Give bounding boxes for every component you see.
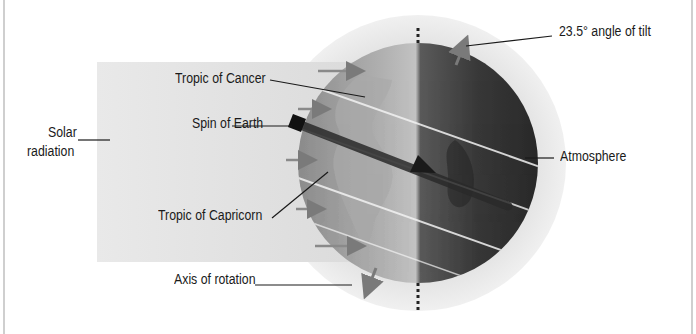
earth-diagram	[0, 0, 696, 334]
label-tropic-of-cancer: Tropic of Cancer	[175, 70, 266, 86]
label-solar-radiation-2: radiation	[27, 143, 74, 159]
label-spin-of-earth: Spin of Earth	[192, 115, 263, 131]
label-angle-of-tilt: 23.5° angle of tilt	[559, 23, 651, 39]
label-solar-radiation-1: Solar	[48, 124, 77, 140]
label-atmosphere: Atmosphere	[560, 148, 626, 164]
label-tropic-of-capricorn: Tropic of Capricorn	[158, 207, 262, 223]
label-axis-of-rotation: Axis of rotation	[174, 271, 255, 287]
